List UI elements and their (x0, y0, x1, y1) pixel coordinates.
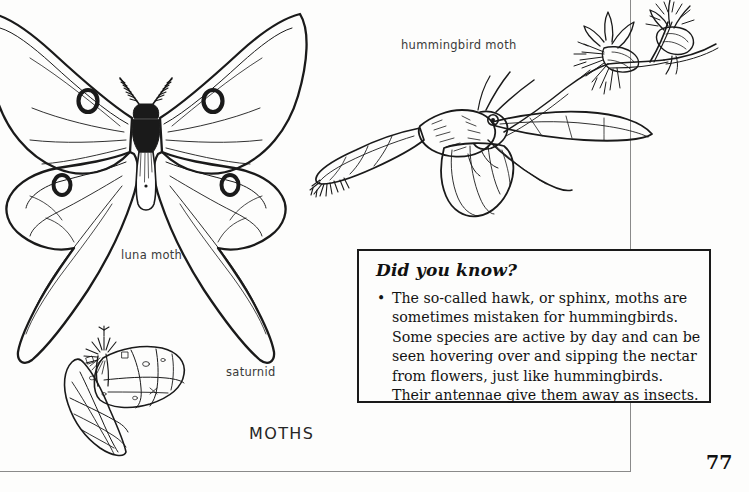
label-saturnid: saturnid (226, 365, 276, 379)
book-page: luna moth saturnid hummingbird moth MOTH… (0, 0, 749, 492)
illustration-layer (0, 0, 749, 492)
did-you-know-box: Did you know? • The so-called hawk, or s… (357, 249, 711, 403)
list-item: • The so-called hawk, or sphinx, moths a… (375, 289, 705, 405)
thistle-flowers-illustration (574, 0, 718, 94)
margin-rule-vertical-top (630, 0, 631, 249)
did-you-know-title: Did you know? (376, 260, 517, 280)
margin-rule-horizontal-bottom (0, 471, 631, 472)
page-number: 77 (706, 451, 732, 473)
label-luna-moth: luna moth (121, 248, 182, 262)
hummingbird-moth-illustration (310, 64, 652, 216)
saturnid-moth-illustration (65, 326, 185, 455)
figure-caption-moths: MOTHS (249, 424, 314, 443)
luna-moth-illustration (0, 14, 307, 363)
did-you-know-list: • The so-called hawk, or sphinx, moths a… (375, 289, 705, 405)
list-item-text: The so-called hawk, or sphinx, moths are… (392, 290, 700, 403)
bullet-icon: • (377, 289, 385, 308)
margin-rule-vertical-bottom (630, 403, 631, 472)
label-hummingbird-moth: hummingbird moth (401, 38, 517, 52)
